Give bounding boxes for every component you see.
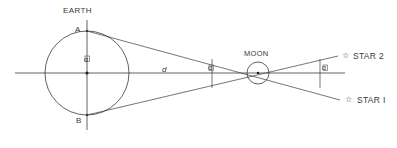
- moon-center-dot: [257, 72, 260, 75]
- angle-label-moon-right: α: [322, 64, 326, 71]
- angle-label-moon-left: α: [208, 64, 212, 71]
- point-a-label: A: [75, 26, 80, 34]
- distance-label: d: [162, 66, 166, 74]
- star-2-label: STAR 2: [353, 52, 384, 61]
- star-1-label: STAR I: [357, 96, 386, 105]
- earth-label: EARTH: [63, 7, 92, 15]
- parallax-diagram: EARTH A B d MOON α α α ☆ STAR 2 ☆ STAR I: [0, 0, 397, 148]
- point-b-label: B: [76, 117, 81, 125]
- diagram-canvas: [0, 0, 397, 148]
- angle-label-earth: α: [84, 56, 88, 63]
- star-icon-2: ☆: [342, 52, 349, 60]
- earth-center-dot: [85, 71, 88, 74]
- star-icon-1: ☆: [345, 96, 352, 104]
- moon-label: MOON: [244, 50, 269, 58]
